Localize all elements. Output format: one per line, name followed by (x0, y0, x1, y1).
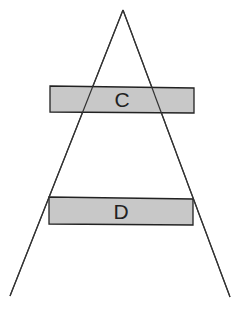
triangle-lines (0, 0, 241, 309)
diagram: C D (0, 0, 241, 309)
bar-c-label: C (50, 86, 194, 113)
bar-d-label: D (49, 198, 193, 225)
